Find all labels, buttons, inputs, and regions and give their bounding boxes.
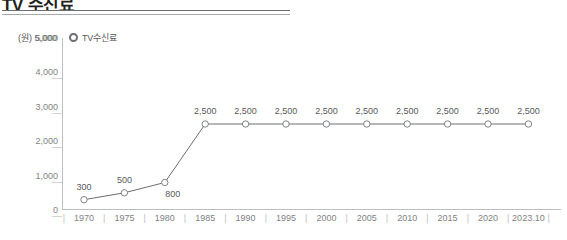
data-point-marker[interactable] bbox=[525, 121, 531, 127]
x-axis-separator: | bbox=[305, 213, 307, 223]
data-point-label: 500 bbox=[117, 175, 132, 185]
data-point-label: 2,500 bbox=[315, 106, 338, 116]
series-line bbox=[84, 124, 528, 200]
x-axis-separator: | bbox=[184, 213, 186, 223]
chart-page: TV 수신료 TV수신료 (원) 5,000 5,0004,0003,0002,… bbox=[0, 0, 567, 240]
x-axis-tick-label: 2005 bbox=[357, 213, 377, 223]
y-axis-tick-mark bbox=[52, 147, 62, 148]
x-axis-tick-label: 1975 bbox=[114, 213, 134, 223]
data-point-marker[interactable] bbox=[202, 121, 208, 127]
y-axis-tick-label: 1,000 bbox=[10, 171, 58, 181]
data-point-label: 2,500 bbox=[275, 106, 298, 116]
series-line-svg bbox=[62, 38, 561, 210]
data-point-marker[interactable] bbox=[283, 121, 289, 127]
x-axis-separator: | bbox=[547, 213, 549, 223]
data-point-label: 2,500 bbox=[194, 106, 217, 116]
y-axis-tick-mark bbox=[52, 182, 62, 183]
y-axis-tick-mark bbox=[52, 113, 62, 114]
data-point-label: 800 bbox=[165, 189, 180, 199]
data-point-label: 2,500 bbox=[517, 106, 540, 116]
x-axis-separator: | bbox=[426, 213, 428, 223]
data-point-marker[interactable] bbox=[364, 121, 370, 127]
x-axis-tick-label: 1980 bbox=[155, 213, 175, 223]
x-axis-separator: | bbox=[386, 213, 388, 223]
y-axis-tick-label: 4,000 bbox=[10, 67, 58, 77]
data-point-label: 2,500 bbox=[396, 106, 419, 116]
y-axis-tick-label: 2,000 bbox=[10, 136, 58, 146]
x-axis-separator: | bbox=[507, 213, 509, 223]
x-axis-separator: | bbox=[224, 213, 226, 223]
x-axis-tick-label: 2020 bbox=[478, 213, 498, 223]
data-point-marker[interactable] bbox=[81, 196, 87, 202]
x-axis-tick-label: 2010 bbox=[397, 213, 417, 223]
data-point-label: 2,500 bbox=[477, 106, 500, 116]
x-axis-tick-label: 1985 bbox=[195, 213, 215, 223]
x-axis-labels: 1970|1975|1980|1985|1990|1995|2000|2005|… bbox=[62, 213, 567, 233]
x-axis-separator: | bbox=[103, 213, 105, 223]
x-axis-separator: | bbox=[143, 213, 145, 223]
data-point-marker[interactable] bbox=[242, 121, 248, 127]
data-point-label: 2,500 bbox=[356, 106, 379, 116]
y-axis-tick-mark bbox=[52, 78, 62, 79]
x-axis-separator: | bbox=[265, 213, 267, 223]
data-point-marker[interactable] bbox=[404, 121, 410, 127]
data-point-label: 2,500 bbox=[234, 106, 257, 116]
x-axis-tick-label: 1990 bbox=[236, 213, 256, 223]
y-axis-labels: 5,0004,0003,0002,0001,0000 bbox=[6, 0, 58, 240]
x-axis-tick-label: 2023.10 bbox=[512, 213, 545, 223]
data-point-marker[interactable] bbox=[444, 121, 450, 127]
x-axis-tick-label: 1995 bbox=[276, 213, 296, 223]
y-axis-tick-label: 0 bbox=[10, 205, 58, 215]
y-axis-tick-label: 5,000 bbox=[10, 33, 58, 43]
data-point-marker[interactable] bbox=[162, 179, 168, 185]
y-axis-tick-label: 3,000 bbox=[10, 102, 58, 112]
x-axis-tick-label: 2000 bbox=[316, 213, 336, 223]
plot-area: 3005008002,5002,5002,5002,5002,5002,5002… bbox=[62, 38, 561, 210]
y-axis-tick-mark bbox=[52, 216, 62, 217]
data-point-label: 300 bbox=[76, 182, 91, 192]
data-point-marker[interactable] bbox=[485, 121, 491, 127]
x-axis-tick-label: 2015 bbox=[438, 213, 458, 223]
x-axis-separator: | bbox=[63, 213, 65, 223]
data-point-marker[interactable] bbox=[121, 190, 127, 196]
x-axis-separator: | bbox=[467, 213, 469, 223]
data-point-marker[interactable] bbox=[323, 121, 329, 127]
x-axis-separator: | bbox=[345, 213, 347, 223]
data-point-label: 2,500 bbox=[436, 106, 459, 116]
x-axis-tick-label: 1970 bbox=[74, 213, 94, 223]
